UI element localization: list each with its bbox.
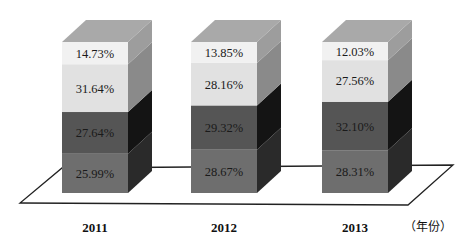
segment-value-label: 32.10% [336, 120, 375, 134]
segment-value-label: 28.16% [205, 78, 244, 92]
category-label-2012: 2012 [211, 220, 237, 235]
segment-value-label: 28.31% [336, 165, 375, 179]
segment-value-label: 27.56% [336, 74, 375, 88]
segment-value-label: 29.32% [205, 121, 244, 135]
segment-value-label: 13.85% [205, 46, 244, 60]
segment-value-label: 14.73% [76, 47, 115, 61]
bar-2011: 25.99%27.64%31.64%14.73% [62, 20, 152, 193]
category-labels: 201120122013 [82, 220, 368, 235]
segment-value-label: 12.03% [336, 45, 375, 59]
bars-group: 25.99%27.64%31.64%14.73%28.67%29.32%28.1… [62, 20, 412, 193]
category-label-2011: 2011 [82, 220, 107, 235]
segment-value-label: 28.67% [205, 165, 244, 179]
x-axis-unit-label: （年份） [404, 220, 452, 234]
bar-2013: 28.31%32.10%27.56%12.03% [322, 20, 412, 193]
segment-value-label: 25.99% [76, 167, 115, 181]
bar-2012: 28.67%29.32%28.16%13.85% [191, 20, 281, 193]
stacked-3d-bar-chart: 25.99%27.64%31.64%14.73%28.67%29.32%28.1… [0, 0, 470, 249]
segment-value-label: 27.64% [76, 126, 115, 140]
segment-value-label: 31.64% [76, 82, 115, 96]
category-label-2013: 2013 [342, 220, 369, 235]
